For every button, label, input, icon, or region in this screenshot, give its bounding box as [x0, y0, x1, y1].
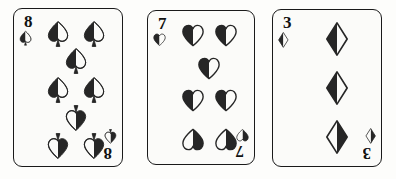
playing-card-hearts-7[interactable]: 7 7	[147, 10, 255, 165]
spade-pip	[82, 21, 105, 47]
corner-diamond-icon	[278, 32, 296, 48]
heart-shape	[181, 89, 204, 112]
spade-pip	[65, 49, 88, 75]
corner-index-top-left: 8	[19, 13, 37, 46]
spade-shape	[47, 133, 70, 159]
spade-shape	[82, 78, 105, 104]
pip-field	[36, 15, 116, 160]
corner-rank-label: 7	[153, 15, 171, 32]
spade-pip	[65, 105, 88, 131]
heart-shape	[153, 33, 166, 46]
heart-shape	[215, 89, 238, 112]
heart-pip	[181, 128, 204, 151]
playing-card-diamonds-3[interactable]: 3 3	[272, 9, 382, 167]
corner-heart-icon	[153, 33, 171, 46]
heart-pip	[215, 24, 238, 47]
corner-rank-label: 3	[278, 14, 296, 31]
spade-shape	[65, 49, 88, 75]
diamond-shape	[325, 22, 348, 56]
spade-shape	[82, 133, 105, 159]
heart-pip	[198, 56, 221, 79]
spade-pip	[47, 21, 70, 47]
diamond-pip	[325, 71, 348, 105]
spade-shape	[47, 78, 70, 104]
heart-shape	[215, 128, 238, 151]
pip-field	[295, 16, 375, 160]
spade-shape	[47, 21, 70, 47]
corner-index-top-left: 7	[153, 15, 171, 46]
heart-pip	[215, 89, 238, 112]
diamond-pip	[325, 120, 348, 154]
diamond-pip	[325, 22, 348, 56]
card-face: 8 8	[14, 9, 122, 166]
spade-shape	[19, 31, 32, 46]
heart-pip	[181, 89, 204, 112]
diamond-shape	[278, 32, 289, 48]
corner-index-top-left: 3	[278, 14, 296, 48]
heart-shape	[198, 56, 221, 79]
card-face: 7 7	[148, 11, 254, 164]
heart-shape	[181, 128, 204, 151]
diamond-shape	[325, 120, 348, 154]
pip-field	[170, 17, 248, 158]
corner-rank-label: 8	[19, 13, 37, 30]
spade-pip	[82, 78, 105, 104]
heart-shape	[181, 24, 204, 47]
corner-spade-icon	[19, 31, 37, 46]
spade-pip	[47, 78, 70, 104]
spade-shape	[82, 21, 105, 47]
heart-pip	[181, 24, 204, 47]
heart-shape	[215, 24, 238, 47]
spade-shape	[65, 105, 88, 131]
diamond-shape	[325, 71, 348, 105]
heart-pip	[215, 128, 238, 151]
spade-pip	[82, 133, 105, 159]
playing-card-spades-8[interactable]: 8 8	[13, 8, 123, 167]
spade-pip	[47, 133, 70, 159]
card-face: 3 3	[273, 10, 381, 166]
